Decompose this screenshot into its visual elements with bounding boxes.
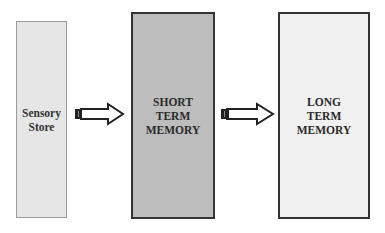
sensory-store-label: Sensory Store — [22, 106, 61, 134]
arrow-right-icon — [220, 102, 276, 126]
arrow-right-icon — [74, 102, 126, 126]
long-term-memory-label: LONG TERM MEMORY — [297, 95, 352, 137]
short-term-memory-label: SHORT TERM MEMORY — [146, 95, 201, 137]
sensory-store-box: Sensory Store — [16, 21, 67, 218]
long-term-memory-box: LONG TERM MEMORY — [278, 12, 370, 219]
short-term-memory-box: SHORT TERM MEMORY — [131, 12, 215, 219]
